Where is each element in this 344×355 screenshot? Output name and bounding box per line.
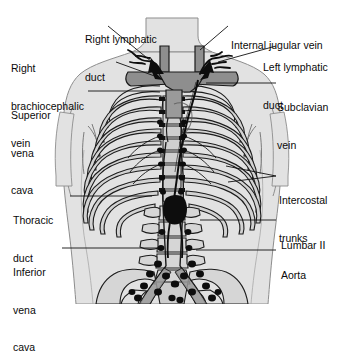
label-line: Right xyxy=(11,62,84,75)
label-line: Thoracic xyxy=(13,214,53,227)
label-inferior-vena-cava: Inferior vena cava xyxy=(13,241,46,355)
label-line: duct xyxy=(85,71,157,84)
label-line: vena xyxy=(13,304,46,317)
label-line: Intercostal xyxy=(279,194,327,207)
label-line: Aorta xyxy=(281,269,306,282)
label-subclavian-vein: Subclavian vein xyxy=(277,76,328,164)
label-line: Subclavian xyxy=(277,101,328,114)
label-right-lymphatic-duct: Right lymphatic duct xyxy=(85,8,157,96)
label-line: Inferior xyxy=(13,266,46,279)
label-line: vena xyxy=(11,147,51,160)
leader-internal-jugular-vein xyxy=(200,26,228,50)
label-line: Left lymphatic xyxy=(263,61,328,74)
label-line: Right lymphatic xyxy=(85,33,157,46)
label-line: Superior xyxy=(11,109,51,122)
label-aorta: Aorta xyxy=(281,244,306,294)
label-line: cava xyxy=(13,341,46,354)
cisterna-chyli xyxy=(163,195,187,225)
label-line: vein xyxy=(277,139,328,152)
